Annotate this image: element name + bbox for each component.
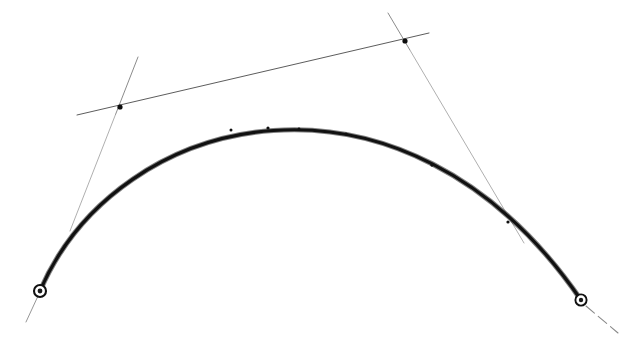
curve-tick-2 <box>266 126 269 129</box>
right-endpoint-center-dot <box>579 298 583 302</box>
right-control-point-dot[interactable] <box>402 38 407 43</box>
curve-tick-6 <box>506 220 509 223</box>
left-control-point-dot[interactable] <box>117 104 122 109</box>
curve-tick-4 <box>345 133 348 136</box>
figure-canvas: Bezier curve with control polygon and ta… <box>0 0 625 345</box>
left-endpoint-center-dot <box>38 289 43 294</box>
curve-tick-5 <box>430 163 433 166</box>
bezier-figure-svg: Bezier curve with control polygon and ta… <box>0 0 625 345</box>
canvas-background <box>0 0 625 345</box>
curve-tick-1 <box>230 129 233 132</box>
curve-tick-3 <box>298 128 301 131</box>
